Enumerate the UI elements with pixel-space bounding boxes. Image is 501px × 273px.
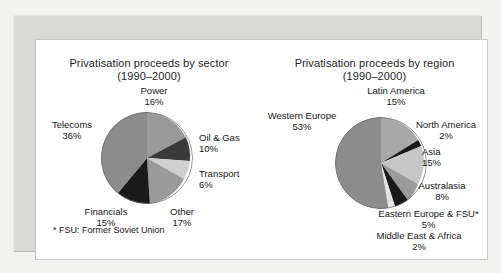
figure-frame: Privatisation proceeds by sector (1990–2… [13, 15, 482, 252]
slice-label-australasia: Australasia 8% [408, 180, 476, 202]
slice-label-other-pct: 17% [160, 217, 204, 228]
footnote-fsu: * FSU: Former Soviet Union [53, 225, 165, 236]
figure-inner-panel: Privatisation proceeds by sector (1990–2… [35, 39, 488, 260]
slice-label-latin-america-name: Latin America [357, 85, 435, 96]
slice-label-asia-name: Asia [422, 146, 472, 157]
slice-label-power-name: Power [124, 85, 184, 96]
slice-label-latin-america: Latin America 15% [357, 85, 435, 107]
chart-title-region-line1: Privatisation proceeds by region [295, 57, 455, 69]
slice-label-oil-gas-name: Oil & Gas [199, 132, 259, 143]
slice-label-middle-east-africa: Middle East & Africa 2% [360, 230, 478, 252]
pie-chart-sector [101, 112, 193, 204]
chart-title-region-line2: (1990–2000) [262, 70, 487, 83]
chart-panel-region: Privatisation proceeds by region (1990–2… [262, 40, 487, 259]
slice-label-transport-name: Transport [199, 168, 259, 179]
slice-label-north-america-pct: 2% [407, 130, 485, 141]
slice-label-other: Other 17% [160, 206, 204, 228]
slice-label-transport-pct: 6% [199, 179, 259, 190]
slice-label-western-europe-pct: 53% [260, 121, 344, 132]
slice-label-australasia-name: Australasia [408, 180, 476, 191]
chart-title-sector-line2: (1990–2000) [36, 70, 262, 83]
figure-page: Privatisation proceeds by sector (1990–2… [0, 0, 501, 273]
slice-label-north-america-name: North America [407, 119, 485, 130]
chart-title-sector-line1: Privatisation proceeds by sector [69, 57, 228, 69]
slice-label-oil-gas: Oil & Gas 10% [199, 132, 259, 154]
slice-label-middle-east-africa-name: Middle East & Africa [360, 230, 478, 241]
slice-label-power-pct: 16% [124, 96, 184, 107]
slice-label-australasia-pct: 8% [408, 191, 476, 202]
slice-label-latin-america-pct: 15% [357, 96, 435, 107]
slice-label-eastern-europe-fsu-pct: 5% [372, 219, 485, 230]
slice-label-power: Power 16% [124, 85, 184, 107]
slice-label-telecoms-name: Telecoms [43, 119, 101, 130]
chart-title-sector: Privatisation proceeds by sector (1990–2… [36, 57, 262, 83]
slice-label-asia: Asia 15% [422, 146, 472, 168]
slice-label-north-america: North America 2% [407, 119, 485, 141]
slice-label-financials-name: Financials [75, 206, 137, 217]
slice-label-asia-pct: 15% [422, 157, 472, 168]
slice-label-transport: Transport 6% [199, 168, 259, 190]
slice-label-middle-east-africa-pct: 2% [360, 241, 478, 252]
slice-label-western-europe-name: Western Europe [260, 110, 344, 121]
slice-label-telecoms-pct: 36% [43, 130, 101, 141]
slice-label-oil-gas-pct: 10% [199, 143, 259, 154]
slice-label-eastern-europe-fsu: Eastern Europe & FSU* 5% [372, 208, 485, 230]
slice-label-eastern-europe-fsu-name: Eastern Europe & FSU* [372, 208, 485, 219]
slice-label-other-name: Other [160, 206, 204, 217]
chart-panel-sector: Privatisation proceeds by sector (1990–2… [36, 40, 262, 259]
slice-label-telecoms: Telecoms 36% [43, 119, 101, 141]
chart-title-region: Privatisation proceeds by region (1990–2… [262, 57, 487, 83]
slice-label-western-europe: Western Europe 53% [260, 110, 344, 132]
